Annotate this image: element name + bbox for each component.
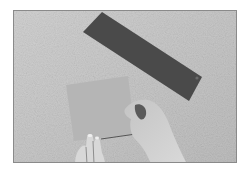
fingernail (88, 134, 93, 137)
photograph (14, 11, 237, 163)
photo-frame (13, 10, 237, 163)
strip-hole (195, 76, 198, 79)
light-paper-square (66, 76, 135, 141)
fingernail (95, 137, 99, 140)
